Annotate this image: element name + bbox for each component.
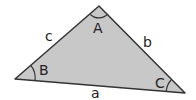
side-label-a: a <box>91 85 100 100</box>
side-label-b: b <box>143 34 152 50</box>
triangle-diagram: A B C c b a <box>0 0 196 100</box>
angle-label-b: B <box>39 62 49 78</box>
angle-label-c: C <box>155 75 165 91</box>
side-label-c: c <box>45 28 53 44</box>
angle-label-a: A <box>93 20 103 36</box>
